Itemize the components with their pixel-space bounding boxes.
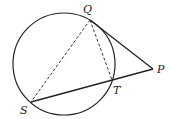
geometry-diagram: Q P T S	[0, 0, 171, 119]
label-P: P	[156, 63, 165, 76]
label-S: S	[20, 104, 28, 117]
secant-SP	[31, 69, 153, 102]
label-T: T	[113, 84, 122, 97]
chord-QS	[31, 20, 90, 102]
diagram-svg: Q P T S	[0, 0, 171, 119]
label-Q: Q	[83, 3, 92, 16]
